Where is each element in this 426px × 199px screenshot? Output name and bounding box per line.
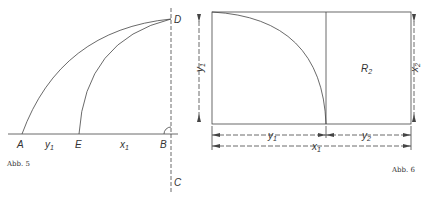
svg-text:Abb. 5: Abb. 5 [6, 160, 30, 168]
svg-text:y1: y1 [44, 139, 54, 151]
dim-total-sub: 1 [317, 146, 321, 153]
caption-abb6: Abb. 6 [391, 166, 415, 174]
dim-right-sub: 2 [414, 63, 421, 68]
svg-text:Abb. 6: Abb. 6 [391, 166, 415, 174]
label-x1-sub: 1 [125, 144, 129, 151]
svg-text:x1: x1 [311, 141, 321, 153]
svg-text:y1: y1 [267, 130, 277, 142]
arc-AD [22, 19, 171, 134]
point-D: D [174, 14, 181, 25]
region-label: R [361, 63, 368, 74]
right-angle-mark [164, 127, 171, 134]
svg-text:y2: y2 [361, 130, 371, 142]
caption-abb5: Abb. 5 [6, 160, 30, 168]
rectangle-outline [212, 12, 411, 124]
label-y1-sub: 1 [50, 144, 54, 151]
arc-ED [79, 19, 171, 134]
point-E: E [75, 139, 82, 150]
svg-text:A: A [16, 139, 24, 150]
svg-text:R2: R2 [361, 63, 372, 75]
point-B: B [160, 139, 167, 150]
point-C: C [174, 177, 182, 188]
point-A: A [16, 139, 24, 150]
svg-text:C: C [174, 177, 182, 188]
svg-text:E: E [75, 139, 82, 150]
svg-text:B: B [160, 139, 167, 150]
svg-text:y1: y1 [194, 63, 206, 73]
diagram-canvas: D A E B C y1 x1 Abb. 5 R2 y1 x2 y1 y2 x1… [0, 0, 426, 199]
svg-text:x1: x1 [119, 139, 129, 151]
dim-left-sub: 1 [199, 63, 206, 67]
svg-text:D: D [174, 14, 181, 25]
quarter-arc [212, 12, 326, 124]
region-sub: 2 [367, 68, 372, 75]
dim-bottom1-sub: 1 [273, 135, 277, 142]
dim-bottom2-sub: 2 [366, 135, 371, 142]
